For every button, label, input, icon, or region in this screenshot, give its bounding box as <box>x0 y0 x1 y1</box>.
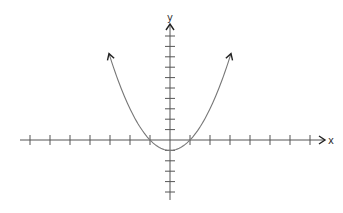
arrowheads <box>107 24 325 144</box>
coordinate-plane: x y <box>0 0 343 213</box>
x-axis-label: x <box>328 135 334 146</box>
axes <box>20 24 325 200</box>
y-axis-label: y <box>167 12 173 23</box>
